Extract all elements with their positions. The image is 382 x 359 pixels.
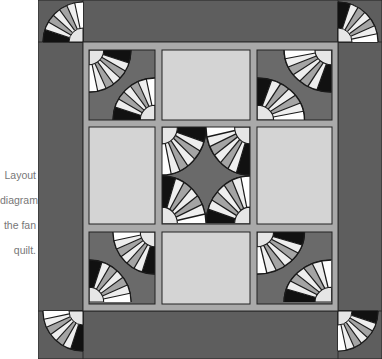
plain-block-top [162, 50, 250, 120]
quilt-diagram [38, 0, 382, 359]
caption-line-3: the fan [4, 219, 36, 231]
caption-line-1: Layout [4, 169, 36, 181]
caption-line-4: quilt. [14, 244, 36, 256]
fan-block-top-left [89, 50, 155, 120]
fan-block-bottom-left [89, 232, 155, 304]
fan-block-bottom-right [257, 232, 332, 304]
plain-block-right [257, 127, 332, 224]
caption-line-2: diagram [0, 194, 38, 206]
plain-block-bottom [162, 232, 250, 304]
figure-caption: Layout diagram the fan quilt. [0, 156, 36, 256]
fan-block-center [162, 127, 250, 224]
plain-block-left [89, 127, 155, 224]
fan-block-top-right [257, 50, 332, 120]
